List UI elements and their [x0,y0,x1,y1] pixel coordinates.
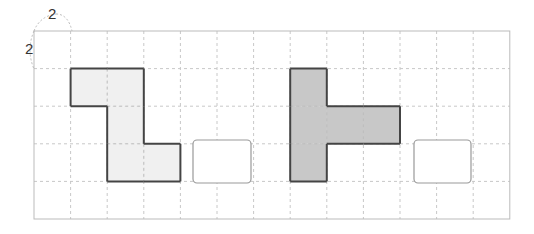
answer-boxes-layer [193,140,471,183]
answer-box-1[interactable] [193,140,251,183]
dark-t-shape [290,69,400,182]
answer-box-2[interactable] [414,140,471,183]
grid-diagram [0,0,534,234]
dashed-grid [34,31,510,219]
dimension-arc-top-right [56,14,72,31]
grid-border [34,31,510,219]
light-l-shape [71,69,181,182]
dimension-label-top: 2 [48,5,56,22]
dimension-label-left: 2 [25,40,33,57]
